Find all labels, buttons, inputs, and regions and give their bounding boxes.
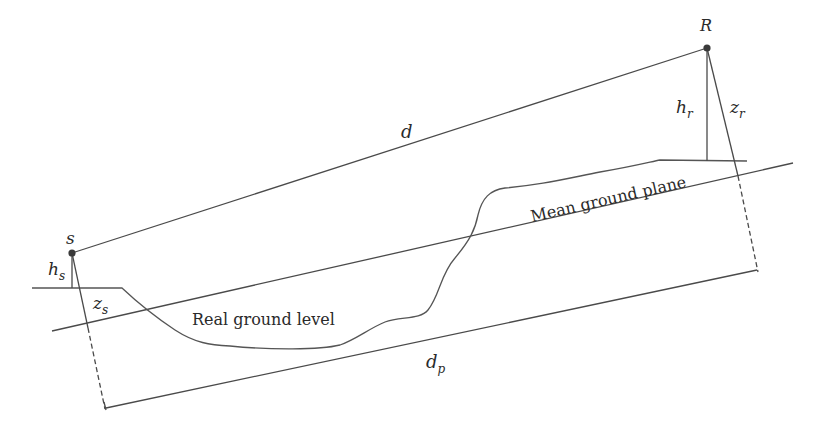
source-projection-dashed-line	[88, 328, 105, 409]
projected-distance-line	[106, 270, 757, 408]
receiver-z-label: zr	[729, 97, 746, 121]
direct-path-line	[72, 48, 707, 253]
receiver-projection-dashed-line	[738, 176, 758, 272]
receiver-label: R	[699, 16, 712, 35]
mean-ground-plane-label: Mean ground plane	[529, 172, 688, 226]
projected-distance-label: dp	[426, 351, 446, 376]
direct-distance-label: d	[401, 121, 413, 142]
receiver-point	[703, 44, 710, 51]
propagation-diagram: s R d hs zs hr zr dp Mean ground plane R…	[0, 0, 822, 436]
real-ground-level-label: Real ground level	[192, 310, 335, 329]
receiver-height-label: hr	[676, 97, 694, 121]
source-height-label: hs	[48, 259, 65, 283]
source-z-line	[72, 253, 88, 328]
source-z-label: zs	[92, 293, 108, 317]
source-label: s	[66, 228, 75, 248]
source-point	[68, 249, 75, 256]
